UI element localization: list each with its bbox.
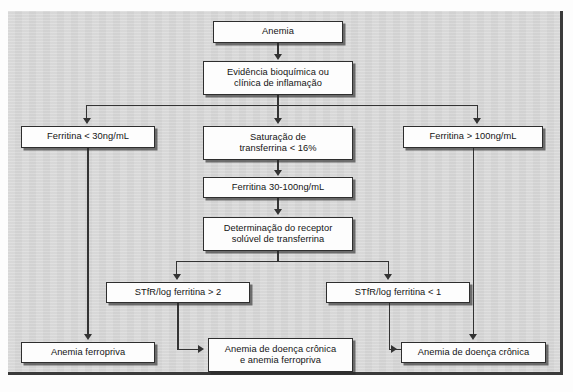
arrowhead-anemia-cronica xyxy=(469,334,477,340)
node-evidencia-line1: Evidência bioquímica ou xyxy=(227,67,329,78)
connector-bus-to-ferritina-alta xyxy=(477,105,478,119)
node-ferritina-media: Ferritina 30-100ng/mL xyxy=(203,177,353,198)
node-anemia-mista: Anemia de doença crônica e anemia ferrop… xyxy=(208,338,353,372)
connector-stfr-maior-to-mista xyxy=(177,349,199,350)
node-anemia-ferropriva-label: Anemia ferropriva xyxy=(51,347,125,358)
flowchart-panel: Anemia Evidência bioquímica ou clínica d… xyxy=(8,11,563,375)
arrowhead-anemia-to-evidencia xyxy=(274,54,282,60)
node-anemia-mista-line2: e anemia ferropriva xyxy=(240,355,321,366)
arrowhead-anemia-mista xyxy=(198,345,204,353)
node-saturacao-line1: Saturação de xyxy=(250,132,306,143)
node-saturacao-line2: transferrina < 16% xyxy=(239,143,316,154)
node-evidencia-inflamacao: Evidência bioquímica ou clínica de infla… xyxy=(203,61,353,95)
node-ferritina-baixa: Ferritina < 30ng/mL xyxy=(21,126,155,148)
node-evidencia-line2: clínica de inflamação xyxy=(234,78,322,89)
node-stfr-menor-1: STfR/log ferritina < 1 xyxy=(326,282,470,303)
arrowhead-receptor xyxy=(274,209,282,215)
arrowhead-stfr-menor xyxy=(384,274,392,280)
arrowhead-ferritina-media xyxy=(274,170,282,176)
connector-bus-to-stfr-maior xyxy=(176,261,177,275)
node-anemia-ferropriva: Anemia ferropriva xyxy=(21,342,155,363)
node-ferritina-alta-label: Ferritina > 100ng/mL xyxy=(429,131,516,142)
arrowhead-anemia-ferropriva xyxy=(84,334,92,340)
node-ferritina-baixa-label: Ferritina < 30ng/mL xyxy=(47,131,129,142)
connector-bus-to-saturacao xyxy=(277,105,278,119)
figure-caption xyxy=(10,381,563,392)
node-ferritina-media-label: Ferritina 30-100ng/mL xyxy=(232,182,325,193)
arrowhead-saturacao xyxy=(274,118,282,124)
connector-split-bus-bottom xyxy=(176,261,389,262)
connector-ferritina-alta-to-cronica xyxy=(473,148,474,335)
node-anemia-cronica: Anemia de doença crônica xyxy=(401,342,546,363)
node-anemia-label: Anemia xyxy=(262,26,294,37)
node-saturacao-transferrina: Saturação de transferrina < 16% xyxy=(203,126,353,160)
node-stfr-maior-label: STfR/log ferritina > 2 xyxy=(135,287,222,298)
node-anemia: Anemia xyxy=(213,21,343,43)
connector-stfr-menor-drop xyxy=(389,303,390,349)
node-receptor-line1: Determinação do receptor xyxy=(224,223,333,234)
node-receptor-line2: solúvel de transferrina xyxy=(232,234,325,245)
connector-bus-to-ferritina-baixa xyxy=(86,105,87,119)
node-anemia-cronica-label: Anemia de doença crônica xyxy=(418,347,529,358)
arrowhead-anemia-cronica-from-stfr xyxy=(391,345,397,353)
diagram-root: Anemia Evidência bioquímica ou clínica d… xyxy=(0,0,573,392)
arrowhead-ferritina-alta xyxy=(473,118,481,124)
node-ferritina-alta: Ferritina > 100ng/mL xyxy=(403,126,543,148)
connector-split-bus-top xyxy=(86,105,478,106)
node-stfr-maior-2: STfR/log ferritina > 2 xyxy=(106,282,250,303)
connector-ferritina-baixa-to-ferropriva xyxy=(87,148,88,335)
node-receptor-soluvel: Determinação do receptor solúvel de tran… xyxy=(203,217,353,251)
connector-bus-to-stfr-menor xyxy=(388,261,389,275)
node-anemia-mista-line1: Anemia de doença crônica xyxy=(225,344,336,355)
node-stfr-menor-label: STfR/log ferritina < 1 xyxy=(355,287,442,298)
arrowhead-stfr-maior xyxy=(173,274,181,280)
arrowhead-ferritina-baixa xyxy=(83,118,91,124)
connector-stfr-maior-drop xyxy=(177,303,178,349)
